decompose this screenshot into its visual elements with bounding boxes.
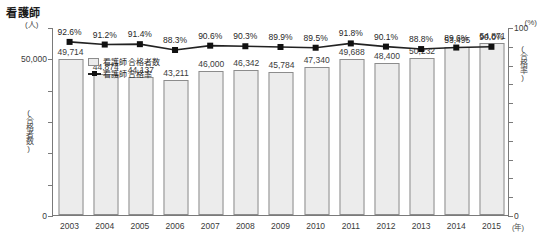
rate-marker[interactable]	[488, 44, 494, 50]
rate-value-label: 91.2%	[93, 30, 117, 40]
rate-marker[interactable]	[102, 42, 108, 48]
left-axis-title: (合格者数)	[23, 108, 34, 152]
x-tick-label: 2006	[166, 221, 185, 231]
left-tick-label: 0	[42, 211, 47, 221]
rate-value-label: 90.6%	[198, 31, 222, 41]
legend-label: 看護師 合格者数	[103, 56, 160, 67]
right-tick-label: 100	[514, 23, 528, 33]
left-tick	[48, 216, 53, 217]
x-tick-label: 2013	[412, 221, 431, 231]
chart-figure: 看護師 (人) (%) (合格者数) (合格率) 050,000 0100 49…	[0, 0, 542, 248]
x-tick-label: 2003	[60, 221, 79, 231]
rate-value-label: 91.8%	[339, 28, 363, 38]
rate-marker[interactable]	[278, 44, 284, 50]
x-tick-label: 2007	[201, 221, 220, 231]
rate-marker[interactable]	[313, 45, 319, 51]
rate-value-label: 91.4%	[128, 29, 152, 39]
left-axis-unit: (人)	[25, 18, 38, 29]
right-tick-label: 0	[514, 211, 519, 221]
legend-label: 看護師 合格率	[103, 68, 152, 79]
rate-value-label: 90.1%	[374, 32, 398, 42]
rate-marker[interactable]	[172, 47, 178, 53]
rate-value-label: 92.6%	[58, 27, 82, 37]
x-tick-label: 2014	[447, 221, 466, 231]
bar-swatch-icon	[88, 58, 99, 66]
rate-marker[interactable]	[137, 41, 143, 47]
legend-item-counts: 看護師 合格者数	[88, 56, 160, 67]
right-tick	[508, 216, 513, 217]
x-tick-label: 2015	[482, 221, 501, 231]
rate-marker[interactable]	[383, 44, 389, 50]
legend: 看護師 合格者数 看護師 合格率	[88, 56, 160, 80]
x-tick-label: 2004	[95, 221, 114, 231]
line-marker-icon	[88, 70, 101, 78]
rate-marker[interactable]	[348, 40, 354, 46]
rate-marker[interactable]	[207, 43, 213, 49]
x-tick-label: 2012	[376, 221, 395, 231]
x-tick-label: 2008	[236, 221, 255, 231]
rate-marker[interactable]	[453, 45, 459, 51]
x-tick-label: 2011	[342, 221, 360, 231]
rate-marker[interactable]	[242, 43, 248, 49]
x-tick-label: 2010	[306, 221, 325, 231]
x-tick-label: 2005	[130, 221, 149, 231]
rate-value-label: 88.3%	[163, 35, 187, 45]
rate-value-label: 88.8%	[409, 34, 433, 44]
rate-value-label: 89.5%	[304, 33, 328, 43]
x-axis-unit: (年)	[512, 221, 524, 232]
rate-value-label: 89.6%	[444, 33, 468, 43]
right-axis-title: (合格率)	[517, 44, 528, 81]
legend-item-rate: 看護師 合格率	[88, 68, 160, 79]
left-tick-label: 50,000	[21, 54, 47, 64]
rate-value-label: 89.9%	[268, 32, 292, 42]
rate-marker[interactable]	[67, 39, 73, 45]
rate-marker[interactable]	[418, 46, 424, 52]
rate-value-label: 90.0%	[479, 32, 503, 42]
x-tick-label: 2009	[271, 221, 290, 231]
rate-value-label: 90.3%	[233, 31, 257, 41]
